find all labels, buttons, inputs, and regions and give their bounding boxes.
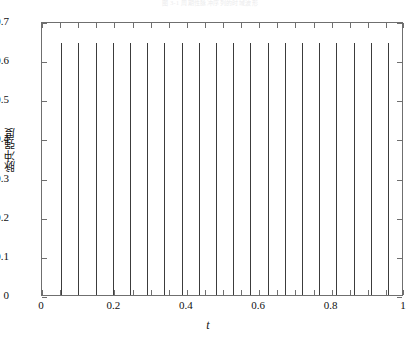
x-axis-tick-label: 0.2 bbox=[93, 300, 133, 311]
x-axis-tick bbox=[403, 23, 404, 28]
chart-figure: 图 3-1 周期性脉冲序列的时域波形 00.10.20.30.40.50.60.… bbox=[0, 0, 416, 340]
x-axis-tick bbox=[403, 290, 404, 295]
y-axis-title: 脉冲强度 bbox=[4, 128, 22, 172]
x-axis-tick-label: 1 bbox=[383, 300, 416, 311]
pulse-line bbox=[199, 43, 200, 295]
pulse-line bbox=[250, 43, 251, 295]
pulse-line bbox=[336, 43, 337, 295]
pulse-line bbox=[268, 43, 269, 295]
pulse-line bbox=[233, 43, 234, 295]
plot-area bbox=[41, 22, 403, 296]
y-axis-tick-label: 0.3 bbox=[0, 173, 9, 184]
y-axis-tick-label: 0 bbox=[0, 290, 9, 301]
y-axis-tick-label: 0.1 bbox=[0, 251, 9, 262]
pulse-line bbox=[130, 43, 131, 295]
x-axis-tick-label: 0.6 bbox=[238, 300, 278, 311]
y-axis-tick-label: 0.7 bbox=[0, 16, 9, 27]
y-axis-tick-label: 0.2 bbox=[0, 212, 9, 223]
y-axis-tick bbox=[42, 297, 47, 298]
pulse-line bbox=[285, 43, 286, 295]
pulse-line bbox=[147, 43, 148, 295]
x-axis-tick-label: 0 bbox=[21, 300, 61, 311]
pulse-line bbox=[216, 43, 217, 295]
x-axis-title: t bbox=[0, 318, 416, 333]
pulse-line bbox=[78, 43, 79, 295]
y-axis-tick-label: 0.6 bbox=[0, 55, 9, 66]
pulse-line bbox=[371, 43, 372, 295]
pulse-line bbox=[61, 43, 62, 295]
pulse-line bbox=[319, 43, 320, 295]
y-axis-tick bbox=[397, 297, 402, 298]
x-axis-tick-label: 0.8 bbox=[311, 300, 351, 311]
pulse-train-series bbox=[42, 23, 402, 295]
pulse-line bbox=[302, 43, 303, 295]
pulse-line bbox=[354, 43, 355, 295]
pulse-line bbox=[164, 43, 165, 295]
y-axis-tick-label: 0.5 bbox=[0, 94, 9, 105]
pulse-line bbox=[113, 43, 114, 295]
pulse-line bbox=[96, 43, 97, 295]
figure-caption: 图 3-1 周期性脉冲序列的时域波形 bbox=[60, 0, 360, 7]
x-axis-tick-label: 0.4 bbox=[166, 300, 206, 311]
pulse-line bbox=[182, 43, 183, 295]
pulse-line bbox=[388, 43, 389, 295]
